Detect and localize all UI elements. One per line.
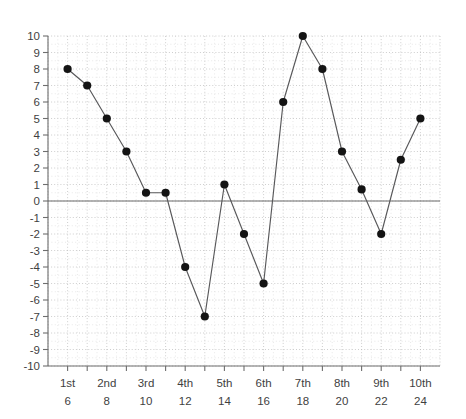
data-point-marker — [299, 32, 307, 40]
x-axis-tick-label-numeric: 10 — [140, 395, 153, 407]
data-point-marker — [64, 65, 72, 73]
data-point-marker — [162, 189, 170, 197]
axes-layer — [43, 36, 440, 371]
x-axis-tick-label-ordinal: 1st — [60, 377, 76, 389]
line-chart: 109876543210-1-2-3-4-5-6-7-8-9-10 1st62n… — [0, 0, 466, 419]
data-point-marker — [83, 81, 91, 89]
y-axis-tick-label: -7 — [30, 311, 40, 323]
data-point-marker — [181, 263, 189, 271]
data-point-marker — [318, 65, 326, 73]
x-axis-tick-label-numeric: 20 — [336, 395, 349, 407]
data-point-marker — [377, 230, 385, 238]
y-axis-tick-label: -4 — [30, 261, 41, 273]
x-axis-tick-label-ordinal: 10th — [409, 377, 431, 389]
x-axis-tick-label-ordinal: 7th — [295, 377, 311, 389]
y-axis-tick-label: 10 — [27, 30, 40, 42]
x-axis-tick-label-numeric: 14 — [218, 395, 231, 407]
data-point-marker — [279, 98, 287, 106]
y-axis-tick-label: 4 — [34, 129, 41, 141]
x-axis-tick-label-ordinal: 4th — [177, 377, 193, 389]
x-axis-tick-label-numeric: 12 — [179, 395, 192, 407]
x-axis-tick-label-ordinal: 5th — [216, 377, 232, 389]
data-point-marker — [220, 180, 228, 188]
y-axis-tick-label: 9 — [34, 47, 40, 59]
data-point-marker — [260, 279, 268, 287]
y-axis-tick-label: -6 — [30, 294, 40, 306]
x-axis-tick-label-ordinal: 6th — [256, 377, 272, 389]
x-axis-tick-label-numeric: 6 — [64, 395, 70, 407]
y-axis-tick-label: -1 — [30, 212, 40, 224]
y-axis-tick-label: -10 — [23, 360, 40, 372]
x-axis-tick-label-numeric: 18 — [296, 395, 309, 407]
y-axis-tick-label: 5 — [34, 113, 40, 125]
data-point-marker — [240, 230, 248, 238]
chart-canvas: 109876543210-1-2-3-4-5-6-7-8-9-10 1st62n… — [0, 0, 466, 419]
y-axis-tick-label: 2 — [34, 162, 40, 174]
y-axis-tick-label: 0 — [34, 195, 40, 207]
data-point-marker — [201, 312, 209, 320]
x-axis-tick-label-ordinal: 2nd — [97, 377, 116, 389]
data-point-marker — [397, 156, 405, 164]
x-axis-tick-label-numeric: 16 — [257, 395, 270, 407]
y-axis-tick-label: 1 — [34, 179, 40, 191]
x-axis-tick-label-numeric: 24 — [414, 395, 427, 407]
data-point-marker — [358, 185, 366, 193]
y-axis-tick-label: -8 — [30, 327, 40, 339]
data-point-marker — [103, 114, 111, 122]
y-axis-tick-label: 6 — [34, 96, 40, 108]
data-point-marker — [338, 147, 346, 155]
x-axis-tick-label-ordinal: 9th — [373, 377, 389, 389]
x-axis-tick-label-numeric: 8 — [104, 395, 110, 407]
y-axis-tick-label: 3 — [34, 146, 40, 158]
data-point-marker — [416, 114, 424, 122]
y-axis-tick-label: 7 — [34, 80, 40, 92]
y-axis-tick-label: -9 — [30, 344, 40, 356]
x-axis-tick-labels: 1st62nd83rd104th125th146th167th188th209t… — [60, 377, 432, 407]
y-axis-tick-label: -3 — [30, 245, 40, 257]
y-axis-tick-label: 8 — [34, 63, 40, 75]
y-axis-tick-label: -5 — [30, 278, 40, 290]
y-axis-tick-label: -2 — [30, 228, 40, 240]
x-axis-tick-label-ordinal: 8th — [334, 377, 350, 389]
data-point-marker — [122, 147, 130, 155]
y-axis-tick-labels: 109876543210-1-2-3-4-5-6-7-8-9-10 — [23, 30, 40, 372]
data-point-marker — [142, 189, 150, 197]
x-axis-tick-label-numeric: 22 — [375, 395, 388, 407]
x-axis-tick-label-ordinal: 3rd — [138, 377, 155, 389]
